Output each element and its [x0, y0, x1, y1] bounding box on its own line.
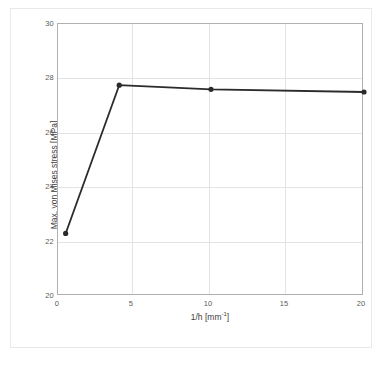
y-tick-label-24: 24: [28, 182, 54, 191]
data-point: [361, 89, 366, 94]
y-axis-title-wrapper: Max. von Mises stress [MPa]: [28, 20, 44, 300]
series-markers: [63, 83, 367, 236]
data-point: [208, 87, 213, 92]
x-tick-label-0: 0: [44, 299, 70, 308]
x-tick-label-10: 10: [195, 299, 221, 308]
figure-container: Max. von Mises stress [MPa] 30 28 26 24 …: [0, 0, 386, 368]
y-tick-label-30: 30: [28, 19, 54, 28]
y-tick-label-28: 28: [28, 73, 54, 82]
plot-area: [57, 23, 363, 295]
x-tick-label-20: 20: [348, 299, 374, 308]
x-tick-label-5: 5: [118, 299, 144, 308]
data-point: [63, 231, 68, 236]
data-point: [117, 83, 122, 88]
y-tick-label-26: 26: [28, 128, 54, 137]
series-layer: [58, 24, 364, 296]
x-axis-title: 1/h [mm-1]: [57, 311, 363, 322]
series-line-max-von-mises-stress: [66, 85, 364, 233]
x-axis-title-base: 1/h [mm: [191, 312, 222, 322]
x-tick-label-15: 15: [271, 299, 297, 308]
y-tick-label-22: 22: [28, 237, 54, 246]
x-axis-title-close: ]: [227, 312, 229, 322]
